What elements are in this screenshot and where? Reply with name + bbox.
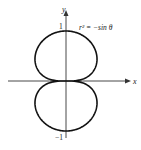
equation-label: r² = −sin θ bbox=[79, 23, 113, 32]
x-axis-label: x bbox=[132, 77, 137, 86]
x-axis-arrow-icon bbox=[125, 79, 131, 84]
tick-label-neg1: −1 bbox=[55, 133, 63, 142]
polar-plot: y x 1 −1 r² = −sin θ bbox=[0, 0, 141, 150]
tick-label-1: 1 bbox=[59, 22, 63, 31]
y-axis-label: y bbox=[61, 5, 66, 14]
